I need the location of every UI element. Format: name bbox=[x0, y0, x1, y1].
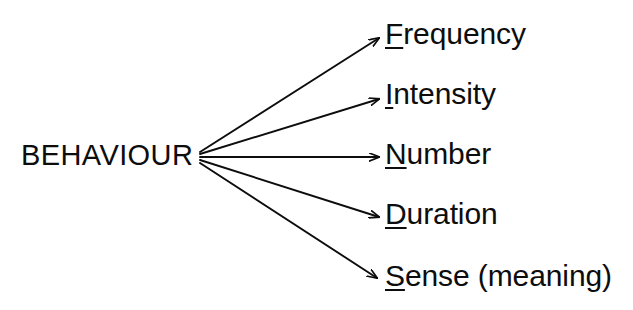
leaf-initial-sense: S bbox=[385, 259, 405, 292]
leaf-rest-intensity: ntensity bbox=[393, 77, 496, 110]
leaf-rest-sense: ense (meaning) bbox=[405, 259, 612, 292]
leaf-rest-duration: uration bbox=[407, 197, 498, 230]
diagram-canvas: BEHAVIOUR Frequency Intensity Number Dur… bbox=[0, 0, 633, 310]
leaf-node-duration: Duration bbox=[385, 199, 498, 229]
leaf-rest-frequency: requency bbox=[403, 17, 526, 50]
leaf-rest-number: umber bbox=[407, 137, 492, 170]
leaf-initial-number: N bbox=[385, 137, 407, 170]
root-node-behaviour: BEHAVIOUR bbox=[21, 141, 193, 170]
leaf-node-intensity: Intensity bbox=[385, 79, 496, 109]
leaf-node-number: Number bbox=[385, 139, 491, 169]
arrow-to-intensity bbox=[200, 99, 379, 154]
arrow-to-duration bbox=[200, 160, 379, 217]
leaf-initial-intensity: I bbox=[385, 77, 393, 110]
leaf-initial-duration: D bbox=[385, 197, 407, 230]
leaf-node-sense: Sense (meaning) bbox=[385, 261, 612, 291]
leaf-initial-frequency: F bbox=[385, 17, 403, 50]
arrow-to-frequency bbox=[200, 38, 379, 152]
arrow-to-sense bbox=[200, 163, 377, 278]
leaf-node-frequency: Frequency bbox=[385, 19, 526, 49]
